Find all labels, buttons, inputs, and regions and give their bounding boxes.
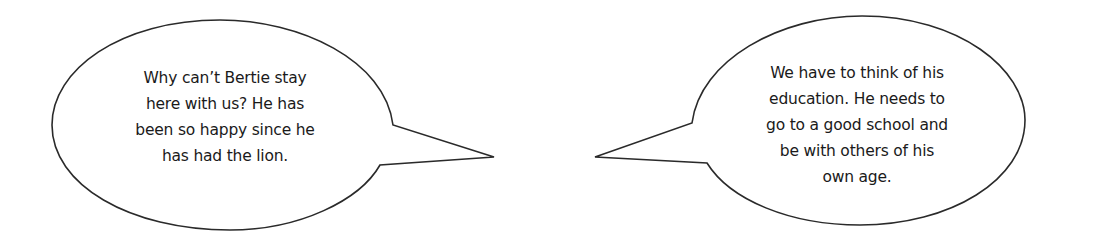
right-bubble-line: education. He needs to <box>727 86 987 112</box>
left-bubble-line: Why can’t Bertie stay <box>95 65 355 91</box>
right-bubble-text: We have to think of his education. He ne… <box>727 60 987 190</box>
left-bubble-text: Why can’t Bertie stay here with us? He h… <box>95 65 355 169</box>
left-bubble-line: here with us? He has <box>95 91 355 117</box>
left-bubble-line: been so happy since he <box>95 117 355 143</box>
right-bubble-line: We have to think of his <box>727 60 987 86</box>
left-bubble-line: has had the lion. <box>95 143 355 169</box>
right-bubble-line: be with others of his <box>727 138 987 164</box>
right-bubble-line: own age. <box>727 164 987 190</box>
right-bubble-line: go to a good school and <box>727 112 987 138</box>
